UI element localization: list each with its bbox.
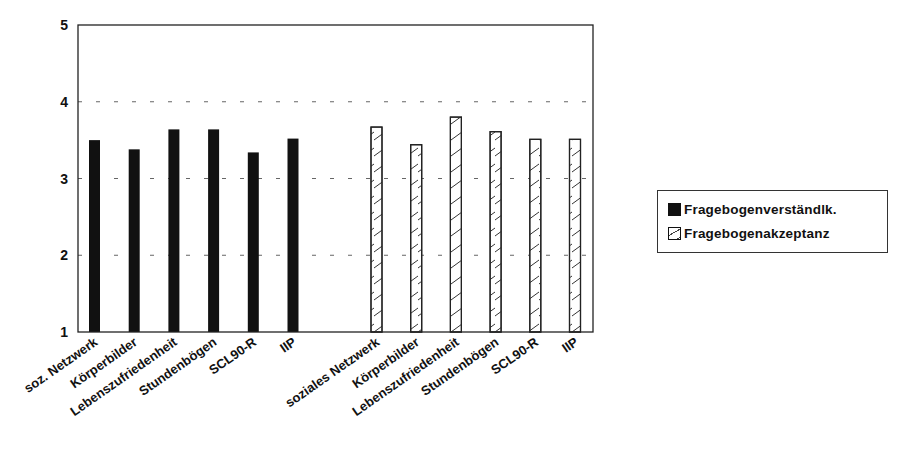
- y-axis-ticks: 12345: [60, 17, 68, 340]
- legend-label: Fragebogenakzeptanz: [684, 226, 830, 241]
- bar-hatched: [450, 117, 461, 332]
- bar-hatched: [490, 132, 501, 332]
- bar-solid: [208, 129, 219, 332]
- bar-solid: [168, 129, 179, 332]
- bar-solid: [248, 152, 259, 332]
- legend-swatch-hatched: [668, 227, 681, 240]
- bar-hatched: [371, 127, 382, 332]
- bar-solid: [288, 139, 299, 332]
- y-tick-label: 2: [60, 247, 68, 263]
- legend-item-verstaendlichkeit: Fragebogenverständlk.: [668, 202, 837, 217]
- legend-label: Fragebogenverständlk.: [684, 202, 837, 217]
- y-tick-label: 1: [60, 324, 68, 340]
- gridlines: [78, 102, 593, 256]
- bar-solid: [89, 140, 100, 332]
- y-tick-label: 4: [60, 94, 68, 110]
- bars: [89, 117, 581, 332]
- bar-hatched: [530, 139, 541, 332]
- bar-solid: [129, 149, 140, 332]
- x-category-label: IIP: [559, 334, 581, 356]
- y-tick-label: 3: [60, 171, 68, 187]
- bar-hatched: [570, 139, 581, 332]
- x-axis-labels: soz. NetzwerkKörperbilderLebenszufrieden…: [21, 334, 581, 419]
- y-tick-label: 5: [60, 17, 68, 33]
- plot-area-frame: [78, 25, 593, 332]
- legend: Fragebogenverständlk. Fragebogenakzeptan…: [657, 190, 888, 253]
- bar-hatched: [411, 145, 422, 332]
- x-category-label: IIP: [277, 334, 299, 356]
- legend-swatch-solid: [668, 203, 681, 216]
- legend-item-akzeptanz: Fragebogenakzeptanz: [668, 226, 830, 241]
